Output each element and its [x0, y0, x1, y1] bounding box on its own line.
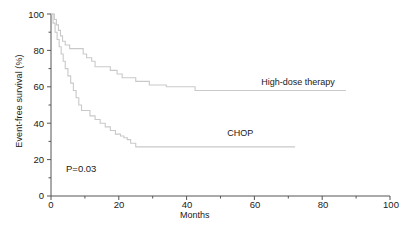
x-tick-label-20: 20: [99, 199, 139, 210]
axis-ticks: [47, 14, 390, 200]
p-value-annotation: P=0.03: [66, 163, 96, 174]
x-axis-label: Months: [180, 210, 210, 220]
series-label-high-dose-therapy: High-dose therapy: [261, 77, 335, 87]
kaplan-meier-figure: Event-free survival (%) Months 100 80 60…: [0, 0, 410, 229]
plot-canvas: [0, 0, 410, 229]
y-tick-label-60: 60: [18, 81, 44, 92]
axis-lines: [51, 14, 390, 196]
x-tick-label-60: 60: [235, 199, 275, 210]
x-tick-label-0: 0: [31, 199, 71, 210]
x-tick-label-80: 80: [303, 199, 343, 210]
x-tick-label-100: 100: [371, 199, 410, 210]
series-label-chop: CHOP: [227, 128, 253, 138]
y-tick-label-100: 100: [18, 9, 44, 20]
y-tick-label-40: 40: [18, 118, 44, 129]
y-tick-label-80: 80: [18, 45, 44, 56]
y-tick-label-20: 20: [18, 154, 44, 165]
x-tick-label-40: 40: [167, 199, 207, 210]
